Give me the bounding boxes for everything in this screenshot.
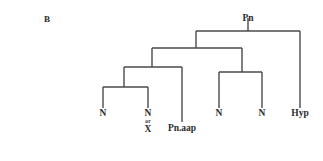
lineage-tree-graphic (0, 0, 323, 161)
leaf-n-or-x-label: NorX (145, 109, 152, 135)
leaf-n-3-label: N (259, 109, 266, 119)
leaf-n-or-x-alternate: X (145, 125, 152, 135)
lineage-figure: B NNorXPn.aapNNHypPn (0, 0, 323, 161)
leaf-n-2-label: N (216, 109, 223, 119)
root-node-label: Pn (242, 14, 253, 24)
tree-lines (103, 18, 300, 122)
leaf-n-1-label: N (100, 109, 107, 119)
leaf-hyp-label: Hyp (291, 109, 308, 119)
leaf-pn-aap-label: Pn.aap (168, 124, 196, 134)
